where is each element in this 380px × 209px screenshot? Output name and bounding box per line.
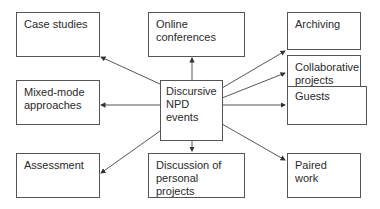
- node-label: Assessment: [24, 159, 92, 172]
- node-label: Mixed-mode: [24, 86, 92, 99]
- node-case-studies: Case studies: [16, 12, 100, 57]
- node-archiving: Archiving: [287, 12, 361, 50]
- node-discussion-of-personal-projects: Discussion of personal projects: [148, 153, 245, 198]
- node-paired-work: Paired work: [287, 153, 361, 198]
- center-label: events: [166, 111, 217, 124]
- node-mixed-mode-approaches: Mixed-mode approaches: [16, 80, 100, 125]
- npd-diagram: Case studies Online conferences Archivin…: [0, 0, 380, 209]
- node-assessment: Assessment: [16, 153, 100, 198]
- node-discursive-npd-events: Discursive NPD events: [160, 80, 223, 141]
- node-label: Paired work: [295, 159, 353, 185]
- node-label: approaches: [24, 99, 92, 112]
- node-label: conferences: [156, 31, 237, 44]
- node-label: Discussion of: [156, 159, 237, 172]
- arrow-to-case-studies: [101, 57, 160, 84]
- node-label: Online: [156, 18, 237, 31]
- node-label: Archiving: [295, 18, 353, 31]
- node-label: Guests: [295, 90, 359, 103]
- node-label: Collaborative: [295, 61, 353, 74]
- center-label: NPD: [166, 98, 217, 111]
- node-online-conferences: Online conferences: [148, 12, 245, 57]
- arrow-to-collaborative-projects: [222, 73, 285, 98]
- node-label: personal projects: [156, 172, 237, 198]
- node-label: Case studies: [24, 18, 92, 31]
- center-label: Discursive: [166, 85, 217, 98]
- node-guests: Guests: [287, 86, 367, 125]
